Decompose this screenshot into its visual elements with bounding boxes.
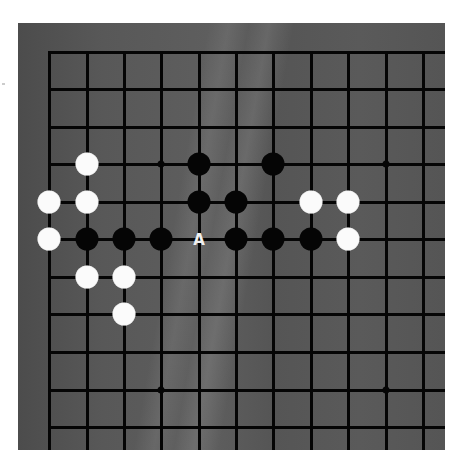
white-stone[interactable] bbox=[337, 191, 360, 214]
black-stone[interactable] bbox=[76, 228, 99, 251]
white-stone[interactable] bbox=[76, 191, 99, 214]
black-stone[interactable] bbox=[188, 191, 211, 214]
grid-line-horizontal bbox=[48, 51, 446, 54]
white-stone[interactable] bbox=[337, 228, 360, 251]
white-stone[interactable] bbox=[300, 191, 323, 214]
white-stone[interactable] bbox=[38, 228, 61, 251]
grid-line-horizontal bbox=[48, 351, 446, 354]
black-stone[interactable] bbox=[113, 228, 136, 251]
grid-line-horizontal bbox=[48, 88, 446, 91]
black-stone[interactable] bbox=[225, 228, 248, 251]
white-stone[interactable] bbox=[113, 266, 136, 289]
black-stone[interactable] bbox=[188, 153, 211, 176]
white-stone[interactable] bbox=[113, 303, 136, 326]
grid-line-horizontal bbox=[48, 313, 446, 316]
black-stone[interactable] bbox=[225, 191, 248, 214]
edge-artifact bbox=[2, 83, 5, 85]
go-board[interactable]: A bbox=[18, 23, 445, 450]
black-stone[interactable] bbox=[300, 228, 323, 251]
white-stone[interactable] bbox=[76, 153, 99, 176]
black-stone[interactable] bbox=[262, 153, 285, 176]
star-point bbox=[158, 161, 165, 168]
black-stone[interactable] bbox=[150, 228, 173, 251]
star-point bbox=[158, 387, 165, 394]
star-point bbox=[383, 387, 390, 394]
grid-line-horizontal bbox=[48, 426, 446, 429]
star-point bbox=[383, 161, 390, 168]
black-stone[interactable] bbox=[262, 228, 285, 251]
grid-line-horizontal bbox=[48, 126, 446, 129]
point-label[interactable]: A bbox=[193, 233, 205, 248]
grid-line-horizontal bbox=[48, 276, 446, 279]
white-stone[interactable] bbox=[76, 266, 99, 289]
white-stone[interactable] bbox=[38, 191, 61, 214]
